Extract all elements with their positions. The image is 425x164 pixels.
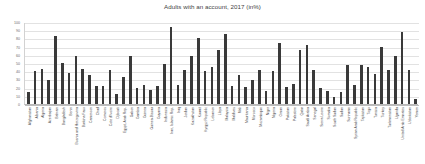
bar[interactable] <box>81 69 84 104</box>
bar-slot[interactable] <box>174 22 181 104</box>
bar-slot[interactable] <box>113 22 120 104</box>
bar[interactable] <box>401 32 404 104</box>
bar[interactable] <box>183 70 186 104</box>
bar-slot[interactable] <box>351 22 358 104</box>
bar[interactable] <box>149 90 152 104</box>
bar-slot[interactable] <box>161 22 168 104</box>
bar-slot[interactable] <box>358 22 365 104</box>
bar[interactable] <box>251 80 254 104</box>
bar[interactable] <box>265 91 268 104</box>
bar-slot[interactable] <box>304 22 311 104</box>
bar-slot[interactable] <box>168 22 175 104</box>
bar[interactable] <box>312 70 315 104</box>
bar[interactable] <box>367 67 370 104</box>
bar[interactable] <box>326 91 329 104</box>
bar[interactable] <box>197 38 200 104</box>
bar-slot[interactable] <box>208 22 215 104</box>
bar[interactable] <box>102 86 105 104</box>
bar[interactable] <box>75 56 78 104</box>
bar-slot[interactable] <box>93 22 100 104</box>
bar-slot[interactable] <box>120 22 127 104</box>
bar-slot[interactable] <box>324 22 331 104</box>
bar-slot[interactable] <box>39 22 46 104</box>
bar[interactable] <box>217 50 220 104</box>
bar[interactable] <box>68 73 71 104</box>
bar-slot[interactable] <box>73 22 80 104</box>
bar[interactable] <box>292 84 295 105</box>
bar-slot[interactable] <box>215 22 222 104</box>
bar[interactable] <box>360 65 363 104</box>
bar[interactable] <box>41 69 44 104</box>
bar-slot[interactable] <box>202 22 209 104</box>
bar-slot[interactable] <box>79 22 86 104</box>
bar[interactable] <box>190 56 193 104</box>
bar-slot[interactable] <box>59 22 66 104</box>
bar-slot[interactable] <box>181 22 188 104</box>
bar-slot[interactable] <box>134 22 141 104</box>
bar[interactable] <box>143 85 146 104</box>
bar[interactable] <box>136 88 139 104</box>
bar-slot[interactable] <box>331 22 338 104</box>
bar-slot[interactable] <box>283 22 290 104</box>
bar[interactable] <box>285 87 288 104</box>
bar[interactable] <box>258 70 261 104</box>
bar[interactable] <box>115 94 118 104</box>
bar[interactable] <box>156 86 159 104</box>
bar-slot[interactable] <box>222 22 229 104</box>
bar-slot[interactable] <box>385 22 392 104</box>
bar[interactable] <box>238 75 241 104</box>
bar-slot[interactable] <box>310 22 317 104</box>
bar-slot[interactable] <box>276 22 283 104</box>
bar-slot[interactable] <box>229 22 236 104</box>
bar-slot[interactable] <box>290 22 297 104</box>
bar[interactable] <box>27 92 30 104</box>
bar[interactable] <box>122 77 125 104</box>
bar[interactable] <box>244 87 247 104</box>
bar-slot[interactable] <box>270 22 277 104</box>
bar-slot[interactable] <box>344 22 351 104</box>
bar-slot[interactable] <box>195 22 202 104</box>
bar[interactable] <box>109 70 112 104</box>
bar-slot[interactable] <box>317 22 324 104</box>
bar[interactable] <box>374 74 377 104</box>
bar[interactable] <box>278 43 281 104</box>
bar[interactable] <box>231 86 234 104</box>
bar-slot[interactable] <box>154 22 161 104</box>
bar[interactable] <box>306 45 309 104</box>
bar[interactable] <box>47 80 50 104</box>
bar-slot[interactable] <box>378 22 385 104</box>
bar-slot[interactable] <box>107 22 114 104</box>
bar[interactable] <box>346 65 349 104</box>
bar-slot[interactable] <box>249 22 256 104</box>
bar-slot[interactable] <box>32 22 39 104</box>
bar[interactable] <box>204 71 207 104</box>
bar[interactable] <box>272 71 275 104</box>
bar-slot[interactable] <box>45 22 52 104</box>
bar-slot[interactable] <box>297 22 304 104</box>
bar-slot[interactable] <box>365 22 372 104</box>
bar[interactable] <box>129 56 132 104</box>
bar-slot[interactable] <box>399 22 406 104</box>
bar[interactable] <box>224 34 227 104</box>
bar[interactable] <box>163 64 166 104</box>
bar-slot[interactable] <box>100 22 107 104</box>
bar[interactable] <box>177 85 180 104</box>
bar-slot[interactable] <box>52 22 59 104</box>
bar[interactable] <box>211 67 214 104</box>
bar-slot[interactable] <box>25 22 32 104</box>
bar[interactable] <box>340 92 343 104</box>
bar[interactable] <box>353 85 356 104</box>
bar-slot[interactable] <box>147 22 154 104</box>
bar-slot[interactable] <box>256 22 263 104</box>
bar-slot[interactable] <box>188 22 195 104</box>
bar[interactable] <box>319 88 322 104</box>
bar-slot[interactable] <box>371 22 378 104</box>
bar-slot[interactable] <box>86 22 93 104</box>
bar[interactable] <box>299 50 302 104</box>
bar[interactable] <box>387 70 390 104</box>
bar[interactable] <box>408 70 411 104</box>
bar-slot[interactable] <box>236 22 243 104</box>
bar-slot[interactable] <box>263 22 270 104</box>
bar[interactable] <box>54 36 57 104</box>
bar[interactable] <box>34 71 37 104</box>
